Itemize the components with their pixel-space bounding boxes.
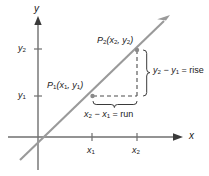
run-minus-x1: − x [92,109,107,119]
run-word: run [120,109,133,119]
diagram-canvas [0,0,209,176]
run-equals: = [110,109,120,119]
run-brace [93,102,137,108]
point-label-p2: P2(x2, y2) [97,36,133,45]
x-axis-arrowhead [173,133,183,141]
y-tick-label-y1: y1 [18,91,26,100]
x2-subscript: 2 [137,148,140,155]
point-label-p1: P1(x1, y1) [47,81,83,90]
x-tick-label-x1: x1 [87,146,95,155]
y2-subscript: 2 [23,46,26,53]
point-marker-p2 [135,48,139,52]
rise-annotation-label: y2 − y1 = rise [153,66,204,75]
y-axis-arrowhead [34,16,41,25]
p1-close: ) [80,80,83,90]
y-tick-label-y2: y2 [18,44,26,53]
rise-equals: = [179,65,189,75]
slope-diagram-figure: y x y2 y1 x1 x2 P1(x1, y1) P2(x2, y2) y2… [0,0,209,176]
y-axis-label: y [34,4,39,14]
p2-comma-y: , y [117,35,127,45]
run-annotation-label: x2 − x1 = run [84,110,133,119]
p2-open-x: (x [106,35,114,45]
sloped-line-arrowhead [157,15,170,20]
y1-subscript: 1 [23,93,26,100]
p2-close: ) [130,35,133,45]
rise-word: rise [189,65,204,75]
rise-minus-y1: − y [161,65,176,75]
x-tick-label-x2: x2 [132,146,140,155]
point-marker-p1 [90,94,94,98]
p1-comma-y: , y [67,80,77,90]
rise-brace [144,50,150,96]
x1-subscript: 1 [92,148,95,155]
x-axis-label: x [189,131,194,141]
p1-open-x: (x [56,80,64,90]
